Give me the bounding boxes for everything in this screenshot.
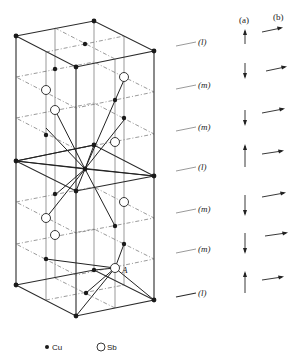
arrow-right-icon xyxy=(262,150,284,155)
arrow-down-icon xyxy=(243,63,247,79)
cu-legend-icon xyxy=(45,345,49,349)
layer-labels: (l) (m) (m) (l) (m) (m) (l) xyxy=(176,37,211,298)
arrow-right-icon xyxy=(266,66,287,72)
arrow-right-icon xyxy=(265,232,288,237)
arrow-right-icon xyxy=(262,192,286,198)
arrow-right-icon xyxy=(262,108,285,114)
arrow-down-icon xyxy=(243,195,247,216)
arrow-down-icon xyxy=(243,110,247,126)
spin-arrows-b xyxy=(262,27,288,281)
layer-label-2: (m) xyxy=(198,80,211,90)
arrow-up-icon xyxy=(243,271,247,293)
spin-arrows-a xyxy=(243,29,247,293)
bonds-center xyxy=(16,80,154,226)
crystal-structure-diagram: A (l) (m) (m) (l) (m) (m) (l) (a) (b) xyxy=(0,0,293,363)
layer-label-1: (l) xyxy=(198,37,207,47)
legend-cu-label: Cu xyxy=(52,343,62,352)
layer-label-3: (m) xyxy=(198,122,211,132)
point-a-label: A xyxy=(121,265,128,275)
arrow-right-icon xyxy=(262,27,283,33)
layer-label-6: (m) xyxy=(198,244,211,254)
bonds-a xyxy=(46,244,154,316)
layer-label-5: (m) xyxy=(198,204,211,214)
legend-sb-label: Sb xyxy=(107,343,117,352)
layer-label-4: (l) xyxy=(198,162,207,172)
arrow-up-icon xyxy=(243,29,247,44)
arrow-right-icon xyxy=(262,276,284,281)
layer-label-7: (l) xyxy=(198,288,207,298)
column-b-header: (b) xyxy=(273,12,284,22)
arrow-up-icon xyxy=(243,144,247,167)
legend: Cu Sb xyxy=(45,343,117,352)
arrow-down-icon xyxy=(243,233,247,254)
column-a-header: (a) xyxy=(239,15,249,25)
sb-legend-icon xyxy=(97,343,105,351)
